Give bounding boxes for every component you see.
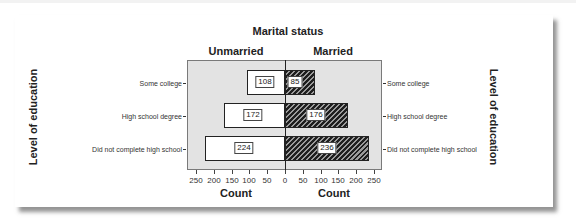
value-label: 85 [288, 76, 303, 88]
x-tick [267, 170, 268, 174]
x-tick-label: 150 [331, 176, 344, 185]
x-tick [338, 170, 339, 174]
x-tick [303, 170, 304, 174]
x-tick [321, 170, 322, 174]
value-label: 176 [306, 109, 325, 121]
x-tick-label: 50 [263, 176, 272, 185]
value-label: 172 [243, 109, 262, 121]
x-tick-label: 0 [283, 176, 287, 185]
y-tick [383, 83, 386, 84]
y-axis-title-right: Level of education [488, 69, 500, 166]
zero-axis-line [285, 60, 286, 170]
category-label-left: Some college [62, 80, 182, 87]
panel-title-married: Married [283, 45, 383, 57]
y-tick [383, 116, 386, 117]
value-label: 224 [234, 142, 253, 154]
x-axis-title-left: Count [220, 187, 252, 199]
x-tick [249, 170, 250, 174]
y-tick [183, 83, 186, 84]
y-tick [183, 116, 186, 117]
x-tick-label: 100 [314, 176, 327, 185]
y-axis-title-left: Level of education [27, 69, 39, 166]
x-tick-label: 200 [207, 176, 220, 185]
x-tick-label: 150 [225, 176, 238, 185]
value-label: 108 [255, 76, 274, 88]
x-tick-label: 50 [299, 176, 308, 185]
x-tick [196, 170, 197, 174]
category-label-left: Did not complete high school [62, 146, 182, 153]
panel-title-unmarried: Unmarried [186, 45, 286, 57]
x-tick [356, 170, 357, 174]
x-tick [232, 170, 233, 174]
value-label: 236 [317, 142, 336, 154]
x-axis-title-right: Count [318, 187, 350, 199]
y-tick [383, 149, 386, 150]
x-tick [374, 170, 375, 174]
x-tick-label: 250 [189, 176, 202, 185]
x-tick [214, 170, 215, 174]
y-tick [183, 149, 186, 150]
x-tick-label: 250 [367, 176, 380, 185]
x-tick [285, 170, 286, 174]
x-tick-label: 100 [242, 176, 255, 185]
top-divider [0, 0, 576, 3]
x-tick-label: 200 [349, 176, 362, 185]
category-label-left: High school degree [62, 113, 182, 120]
chart-title: Marital status [0, 25, 576, 37]
